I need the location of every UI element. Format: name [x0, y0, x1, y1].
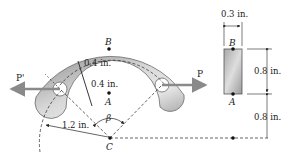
radial-line-right	[110, 85, 162, 138]
point-c-dot	[108, 136, 112, 140]
force-label-left: P'	[16, 73, 25, 83]
width-label: 0.3 in.	[221, 9, 248, 19]
angle-label: β	[105, 113, 111, 123]
cross-section-point-a-label: A	[228, 97, 236, 107]
cross-section-center-dot	[231, 136, 235, 140]
point-a-label: A	[104, 97, 112, 107]
force-label-right: P	[197, 69, 203, 79]
radius-label: 1.2 in.	[62, 120, 89, 130]
point-c-label: C	[106, 142, 113, 152]
height-label: 0.8 in.	[254, 66, 281, 76]
cross-section-point-b-label: B	[228, 38, 236, 48]
outer-thickness-label: 0.4 in.	[84, 58, 111, 68]
curved-bar-diagram: P' P 0.4 in. 0.4 in. B A C β 1.2 in. B A…	[0, 0, 289, 158]
cross-section: B A 0.3 in. 0.8 in. 0.8 in.	[221, 9, 281, 140]
point-a-dot	[107, 91, 111, 95]
radial-line-left	[60, 89, 110, 138]
cross-section-point-a-dot	[231, 92, 235, 96]
offset-label: 0.8 in.	[254, 112, 281, 122]
point-b-dot	[107, 47, 111, 51]
inner-thickness-label: 0.4 in.	[91, 79, 118, 89]
cross-section-rect	[224, 49, 242, 94]
point-b-label: B	[104, 37, 112, 47]
